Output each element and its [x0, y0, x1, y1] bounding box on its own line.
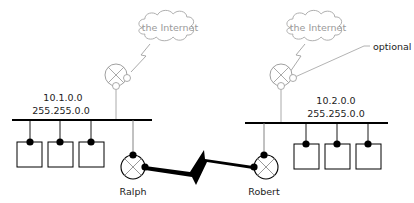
- network-mask-left: 255.255.0.0: [32, 105, 89, 116]
- wan-link-ralph-robert: [145, 150, 253, 185]
- host-icon: [294, 123, 319, 169]
- router-label-robert: Robert: [248, 186, 280, 197]
- network-address-right: 10.2.0.0: [316, 95, 355, 106]
- hosts-right: [294, 123, 381, 169]
- router-label-ralph: Ralph: [120, 186, 147, 197]
- host-icon: [325, 123, 350, 169]
- internet-cloud-right: the Internet: [287, 10, 347, 40]
- gateway-router-left-icon: [105, 64, 131, 90]
- cloud-label: the Internet: [290, 22, 347, 33]
- network-address-left: 10.1.0.0: [43, 92, 82, 103]
- host-icon: [79, 120, 104, 167]
- internet-cloud-left: the Internet: [139, 10, 199, 40]
- network-mask-right: 255.255.0.0: [307, 108, 364, 119]
- cloud-label: the Internet: [142, 22, 199, 33]
- wan-link-right-internet: [290, 44, 305, 72]
- network-diagram: the Internet 10.1.0.0 255.255.0.0: [0, 0, 414, 203]
- router-robert-icon: [250, 151, 278, 179]
- host-icon: [48, 120, 73, 167]
- optional-pointer-line: [295, 46, 370, 77]
- host-icon: [356, 123, 381, 169]
- wan-link-left-internet: [131, 44, 150, 72]
- optional-annotation: optional: [373, 41, 412, 52]
- hosts-left: [17, 120, 104, 167]
- router-ralph-icon: [121, 151, 149, 179]
- host-icon: [17, 120, 42, 167]
